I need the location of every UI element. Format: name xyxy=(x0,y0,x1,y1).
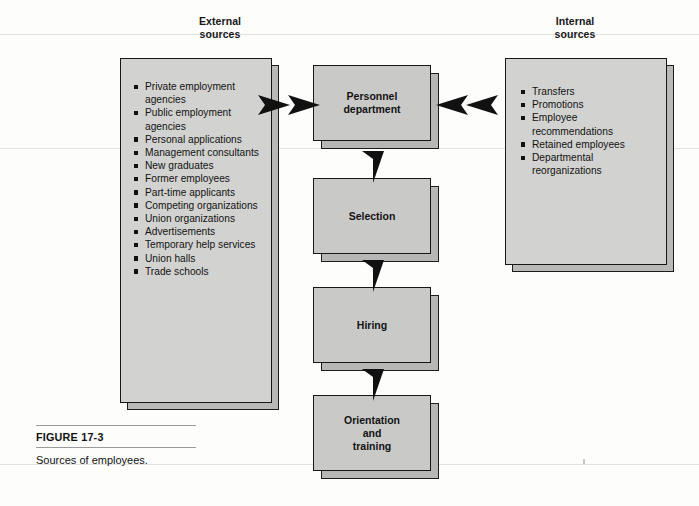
process-box-orientation-and-training: Orientation and training xyxy=(313,395,431,471)
process-face: Selection xyxy=(313,178,431,254)
arrow-down-icon xyxy=(359,369,387,403)
figure-caption-text: Sources of employees. xyxy=(36,448,196,466)
external-source-item: Private employment agencies xyxy=(134,80,266,106)
external-source-item: Advertisements xyxy=(134,225,266,238)
process-face: Orientation and training xyxy=(313,395,431,471)
arrow-right-icon xyxy=(288,92,322,118)
external-source-item: Union halls xyxy=(134,252,266,265)
process-label: Hiring xyxy=(357,319,387,332)
arrow-down-icon xyxy=(359,151,387,185)
arrow-left-icon xyxy=(434,92,468,118)
internal-source-item: Retained employees xyxy=(521,138,657,151)
internal-source-item: Promotions xyxy=(521,98,657,111)
arrow-down-icon xyxy=(359,260,387,294)
figure-page: External sources Internal sources Privat… xyxy=(0,0,699,506)
process-box-selection: Selection xyxy=(313,178,431,254)
process-box-hiring: Hiring xyxy=(313,287,431,363)
internal-source-item: Departmental reorganizations xyxy=(521,151,657,177)
process-label: Selection xyxy=(349,210,396,223)
internal-sources-list: TransfersPromotionsEmployee recommendati… xyxy=(521,85,657,177)
internal-source-item: Employee recommendations xyxy=(521,111,657,137)
process-label: Orientation and training xyxy=(344,414,400,453)
process-face: Personnel department xyxy=(313,65,431,141)
process-face: Hiring xyxy=(313,287,431,363)
external-sources-list: Private employment agenciesPublic employ… xyxy=(134,80,266,278)
internal-sources-heading: Internal sources xyxy=(505,15,645,40)
process-box-personnel-department: Personnel department xyxy=(313,65,431,141)
arrow-right-icon xyxy=(258,92,292,118)
external-source-item: Trade schools xyxy=(134,265,266,278)
external-source-item: Personal applications xyxy=(134,133,266,146)
internal-source-item: Transfers xyxy=(521,85,657,98)
scan-artifact-speck xyxy=(583,459,585,464)
external-source-item: Temporary help services xyxy=(134,238,266,251)
external-source-item: Management consultants xyxy=(134,146,266,159)
figure-caption-block: FIGURE 17-3 Sources of employees. xyxy=(36,425,196,466)
external-sources-heading: External sources xyxy=(150,15,290,40)
figure-number: FIGURE 17-3 xyxy=(36,426,196,447)
external-source-item: Competing organizations xyxy=(134,199,266,212)
external-source-item: Former employees xyxy=(134,172,266,185)
external-source-item: Union organizations xyxy=(134,212,266,225)
process-label: Personnel department xyxy=(343,90,400,116)
external-source-item: Public employment agencies xyxy=(134,106,266,132)
arrow-left-icon xyxy=(464,92,498,118)
external-source-item: Part-time applicants xyxy=(134,186,266,199)
external-source-item: New graduates xyxy=(134,159,266,172)
